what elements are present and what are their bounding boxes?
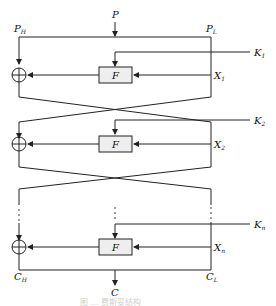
input-label: P bbox=[111, 9, 119, 20]
key-n-label: Kn bbox=[253, 219, 265, 231]
x-2-label: X2 bbox=[213, 139, 225, 151]
left-output-label: CH bbox=[14, 271, 28, 283]
output-label: C bbox=[111, 287, 119, 298]
f-label-1: F bbox=[111, 70, 120, 81]
key-2-label: K2 bbox=[253, 115, 265, 127]
f-label-2: F bbox=[111, 139, 120, 150]
ellipsis-dots bbox=[18, 207, 212, 221]
round-2: K2 X2 F bbox=[12, 115, 265, 189]
right-output-label: CL bbox=[206, 271, 218, 283]
round-n: Kn Xn F bbox=[12, 189, 265, 270]
key-1-label: K1 bbox=[253, 47, 265, 59]
feistel-diagram: P PH PL K1 X1 F K2 X2 bbox=[0, 0, 276, 306]
x-1-label: X1 bbox=[213, 70, 225, 82]
left-input-label: PH bbox=[13, 23, 27, 35]
right-input-label: PL bbox=[205, 23, 217, 35]
x-n-label: Xn bbox=[213, 242, 225, 254]
figure-caption: 图 … 费斯妥结构 bbox=[80, 297, 141, 306]
f-label-n: F bbox=[111, 242, 120, 253]
round-1: K1 X1 F bbox=[12, 37, 265, 122]
